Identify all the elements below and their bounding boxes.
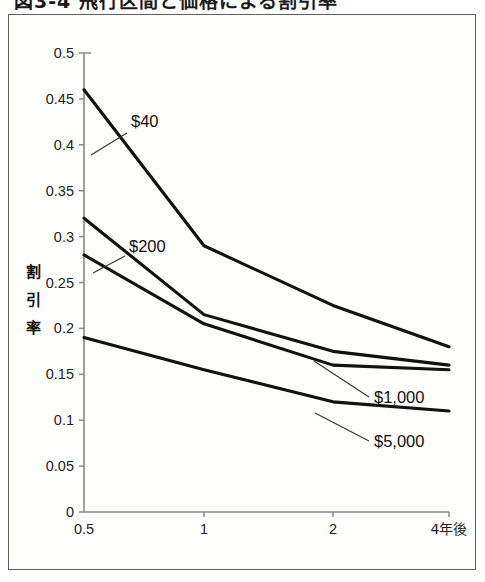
y-axis-title-char: 割 (26, 263, 41, 281)
series-label: $40 (131, 112, 159, 130)
y-axis-title-char: 引 (26, 291, 41, 309)
line-chart: 00.050.10.150.20.250.30.350.40.450.50.51… (9, 15, 477, 571)
y-axis-tick-label: 0.15 (46, 366, 74, 382)
y-axis-tick-label: 0.05 (46, 458, 74, 474)
figure-frame: 00.050.10.150.20.250.30.350.40.450.50.51… (8, 14, 476, 570)
y-axis-tick-label: 0.25 (46, 275, 74, 291)
y-axis-tick-label: 0.45 (46, 91, 74, 107)
x-axis-tick-label: 4年後 (431, 521, 468, 537)
series-label-leader (91, 133, 127, 155)
x-axis-tick-label: 1 (200, 521, 208, 537)
y-axis-tick-label: 0.1 (54, 412, 74, 428)
y-axis-tick-label: 0 (66, 504, 74, 520)
chart-svg: 00.050.10.150.20.250.30.350.40.450.50.51… (9, 15, 477, 571)
series-label: $5,000 (374, 432, 424, 450)
y-axis-tick-label: 0.3 (54, 229, 74, 245)
figure-caption-strip: 図3-4 飛行区間と価格による割引率 (0, 0, 485, 13)
x-axis-tick-label: 0.5 (74, 521, 94, 537)
y-axis-tick-label: 0.5 (54, 45, 74, 61)
y-axis-tick-label: 0.2 (54, 320, 74, 336)
x-axis-tick-label: 2 (329, 521, 337, 537)
y-axis-tick-label: 0.4 (54, 137, 74, 153)
series-label-leader (315, 413, 369, 441)
y-axis-title-char: 率 (26, 319, 41, 337)
figure-caption: 図3-4 飛行区間と価格による割引率 (14, 0, 338, 13)
y-axis-tick-label: 0.35 (46, 183, 74, 199)
series-label: $1,000 (374, 388, 424, 406)
series-label: $200 (129, 237, 166, 255)
